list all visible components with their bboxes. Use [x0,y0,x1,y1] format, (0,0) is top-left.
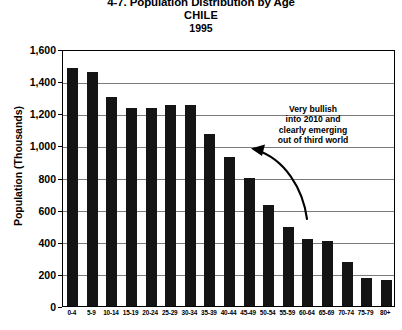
bar [146,108,157,306]
y-axis-tick-mark [58,179,62,180]
bar [283,227,294,306]
bar [126,108,137,306]
bar [322,241,333,306]
annotation-arrow-icon [243,139,323,221]
y-axis-tick-label: 1,600 [0,45,56,55]
y-axis-tick-label: 1,200 [0,109,56,119]
bar [67,68,78,306]
bar [185,105,196,306]
bar [106,97,117,306]
chart-subtitle-year: 1995 [0,22,402,35]
x-axis-tick-label: 80+ [372,309,398,316]
y-axis-tick-mark [58,243,62,244]
plot-area [62,50,395,307]
y-axis-tick-mark [58,211,62,212]
annotation-text: Very bullish into 2010 and clearly emerg… [243,104,383,146]
bar [381,280,392,307]
bar [165,105,176,306]
y-axis-label: Population (Thousands) [12,76,24,256]
y-axis-tick-label: 400 [0,238,56,248]
y-axis-tick-label: 800 [0,174,56,184]
annotation-line-3: clearly emerging [243,125,383,135]
y-axis-tick-mark [58,82,62,83]
bar [204,134,215,306]
bar [87,72,98,307]
chart-subtitle-country: CHILE [0,9,402,22]
bar [224,157,235,306]
chart-title-block: 4-7. Population Distribution by Age CHIL… [0,0,402,35]
population-distribution-chart: 4-7. Population Distribution by Age CHIL… [0,0,402,330]
bar-series [63,51,394,306]
y-axis-tick-label: 200 [0,270,56,280]
bar [361,278,372,306]
chart-title: 4-7. Population Distribution by Age [0,0,402,9]
y-axis-tick-label: 0 [0,302,56,312]
annotation-line-1: Very bullish [243,104,383,114]
y-axis-tick-mark [58,114,62,115]
annotation-line-2: into 2010 and [243,114,383,124]
y-axis-tick-mark [58,146,62,147]
bar [302,239,313,306]
bar [342,262,353,306]
y-axis-tick-label: 600 [0,206,56,216]
x-axis-tick-labels: 0-45-910-1415-1920-2425-2930-3435-3940-4… [62,309,395,329]
y-axis-tick-mark [58,275,62,276]
y-axis-tick-mark [58,50,62,51]
y-axis-tick-label: 1,400 [0,77,56,87]
y-axis-tick-label: 1,000 [0,141,56,151]
y-axis-tick-mark [58,307,62,308]
annotation-line-4: out of third world [243,135,383,145]
